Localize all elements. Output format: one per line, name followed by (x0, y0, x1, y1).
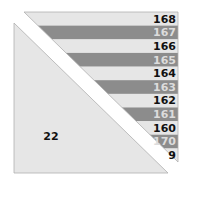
strip-label: 168 (153, 13, 176, 26)
strip-label: 165 (153, 54, 176, 67)
solid-triangle-label: 22 (43, 130, 58, 143)
strip-label: 160 (153, 122, 176, 135)
strip-label: 167 (153, 26, 176, 39)
strip-label: 164 (153, 67, 176, 80)
strip-label: 166 (153, 40, 176, 53)
strip-label: 9 (168, 149, 176, 162)
strip-label: 170 (153, 135, 176, 148)
strip-label: 161 (153, 108, 176, 121)
strip-label: 163 (153, 81, 176, 94)
quilt-block-diagram: 22 1681671661651641631621611601709 (0, 0, 198, 200)
strip-label: 162 (153, 94, 176, 107)
